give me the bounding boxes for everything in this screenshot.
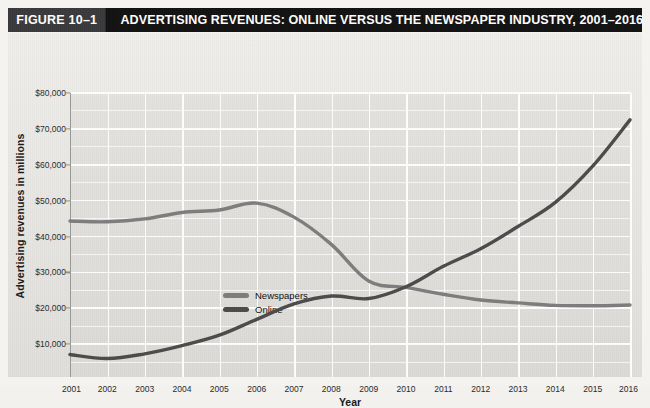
figure-title: ADVERTISING REVENUES: ONLINE VERSUS THE … — [113, 7, 650, 32]
y-tick-label: $20,000 — [35, 303, 66, 313]
x-tick-label: 2007 — [285, 384, 304, 394]
series-line-newspapers — [70, 203, 630, 306]
x-tick-label: 2010 — [397, 384, 416, 394]
x-tick-label: 2011 — [434, 384, 452, 394]
y-tick-label: $70,000 — [35, 124, 66, 134]
y-tick-label: $10,000 — [35, 339, 66, 349]
x-tick-label: 2002 — [98, 384, 117, 394]
x-tick-label: 2013 — [509, 384, 528, 394]
y-axis-title: Advertising revenues in millions — [14, 0, 26, 96]
x-tick-label: 2006 — [247, 384, 266, 394]
x-axis-tick-labels: 2001200220032004200520062007200820092010… — [70, 381, 630, 397]
series-layer — [70, 93, 630, 380]
x-tick-label: 2005 — [210, 384, 229, 394]
figure-title-bar: FIGURE 10–1 ADVERTISING REVENUES: ONLINE… — [8, 7, 642, 32]
gridline-vertical — [630, 93, 632, 380]
y-tick-label: $50,000 — [35, 196, 66, 206]
figure-plate: Advertising revenues in millions 0$10,00… — [8, 36, 642, 377]
x-tick-label: 2001 — [62, 384, 81, 394]
x-tick-label: 2016 — [619, 384, 638, 394]
y-tick-label: $60,000 — [35, 160, 66, 170]
y-tick-label: $80,000 — [35, 88, 66, 98]
x-tick-label: 2015 — [583, 384, 602, 394]
y-tick-label: $30,000 — [35, 267, 66, 277]
x-tick-label: 2004 — [173, 384, 192, 394]
x-axis-title: Year — [70, 396, 630, 408]
y-axis-tick-labels: 0$10,000$20,000$30,000$40,000$50,000$60,… — [8, 93, 66, 380]
x-tick-label: 2009 — [359, 384, 378, 394]
x-tick-label: 2014 — [546, 384, 565, 394]
x-tick-label: 2003 — [135, 384, 154, 394]
series-line-online — [70, 120, 630, 359]
x-tick-label: 2012 — [471, 384, 490, 394]
x-tick-label: 2008 — [322, 384, 341, 394]
y-tick-label: $40,000 — [35, 232, 66, 242]
